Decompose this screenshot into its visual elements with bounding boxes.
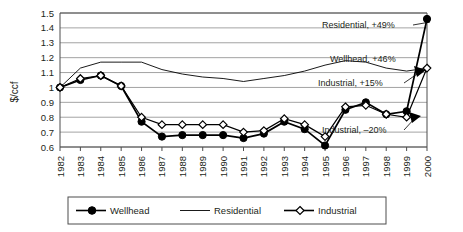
x-tick-label: 1987 xyxy=(156,156,167,177)
data-point-wellhead xyxy=(199,131,206,138)
data-point-wellhead xyxy=(423,15,430,22)
y-tick-label: 0.8 xyxy=(41,112,54,123)
x-tick-label: 1982 xyxy=(55,156,66,177)
x-tick-label: 1988 xyxy=(177,156,188,177)
x-tick-label: 1986 xyxy=(136,156,147,177)
x-tick-label: 1995 xyxy=(320,156,331,177)
annotation-label: Residential, +49% xyxy=(322,20,395,30)
y-tick-label: 1 xyxy=(49,82,54,93)
data-point-industrial xyxy=(240,128,248,136)
data-point-wellhead xyxy=(321,142,328,149)
y-tick-label: 1.3 xyxy=(41,37,54,48)
x-tick-label: 1983 xyxy=(75,156,86,177)
data-point-industrial xyxy=(179,121,187,129)
annotation-label: Industrial, +15% xyxy=(318,78,383,88)
legend-label-wellhead: Wellhead xyxy=(110,205,149,216)
data-point-industrial xyxy=(219,121,227,129)
y-tick-label: 0.6 xyxy=(41,142,54,153)
chart-root: 0.60.70.80.911.11.21.31.41.5 19821983198… xyxy=(0,0,463,232)
y-tick-label: 1.2 xyxy=(41,52,54,63)
data-point-industrial xyxy=(199,121,207,129)
y-tick-label: 1.5 xyxy=(41,8,54,19)
data-point-industrial xyxy=(158,121,166,129)
legend-label-residential: Residential xyxy=(214,205,261,216)
legend-label-industrial: Industrial xyxy=(318,205,357,216)
x-axis-tick-labels: 1982198319841985198619871988198919901991… xyxy=(55,156,433,177)
y-tick-label: 0.7 xyxy=(41,127,54,138)
x-tick-label: 2000 xyxy=(422,156,433,177)
y-axis-tick-labels: 0.60.70.80.911.11.21.31.41.5 xyxy=(41,8,54,153)
y-tick-label: 1.4 xyxy=(41,22,54,33)
x-tick-label: 1990 xyxy=(218,156,229,177)
x-tick-label: 1998 xyxy=(381,156,392,177)
y-tick-label: 0.9 xyxy=(41,97,54,108)
x-tick-label: 1994 xyxy=(299,156,310,177)
line-chart: 0.60.70.80.911.11.21.31.41.5 19821983198… xyxy=(0,0,463,232)
x-tick-label: 1989 xyxy=(197,156,208,177)
x-tick-label: 1984 xyxy=(95,156,106,177)
annotation-label: Industrial, –20% xyxy=(322,125,387,135)
x-tick-label: 1985 xyxy=(116,156,127,177)
data-point-wellhead xyxy=(158,133,165,140)
data-point-wellhead xyxy=(179,131,186,138)
chart-legend: WellheadResidentialIndustrial xyxy=(68,197,386,224)
x-tick-label: 1999 xyxy=(401,156,412,177)
annotation-label: Wellhead, +46% xyxy=(330,54,396,64)
x-tick-label: 1992 xyxy=(258,156,269,177)
x-tick-label: 1996 xyxy=(340,156,351,177)
x-tick-label: 1993 xyxy=(279,156,290,177)
y-axis-label: $/ccf xyxy=(9,81,20,102)
legend-marker-filled-circle xyxy=(88,207,96,215)
x-tick-label: 1997 xyxy=(360,156,371,177)
x-axis-tick-marks xyxy=(60,147,427,151)
y-tick-label: 1.1 xyxy=(41,67,54,78)
data-point-wellhead xyxy=(220,131,227,138)
data-point-industrial xyxy=(403,113,411,121)
x-tick-label: 1991 xyxy=(238,156,249,177)
